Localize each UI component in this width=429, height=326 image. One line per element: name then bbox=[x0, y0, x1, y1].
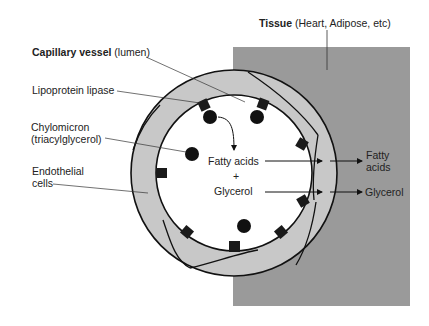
plus-sign: + bbox=[233, 170, 239, 182]
chylomicron-particle bbox=[203, 110, 217, 124]
endothelial-label: Endothelial bbox=[32, 165, 84, 177]
chylomicron-particle bbox=[237, 219, 251, 233]
tissue-examples: (Heart, Adipose, etc) bbox=[292, 17, 391, 29]
lipase-marker bbox=[156, 168, 167, 178]
tissue-bold: Tissue bbox=[259, 17, 292, 29]
capillary-vessel-qualifier: (lumen) bbox=[111, 46, 150, 58]
chylomicron-particle bbox=[250, 110, 264, 124]
lipase-marker bbox=[229, 241, 240, 252]
chylomicron-label: Chylomicron bbox=[31, 121, 90, 133]
triacylglycerol-label: (triacylglycerol) bbox=[31, 133, 102, 145]
capillary-vessel-label: Capillary vessel (lumen) bbox=[32, 46, 150, 58]
tissue-glycerol-label: Glycerol bbox=[365, 186, 404, 198]
cells-label: cells bbox=[32, 177, 53, 189]
lipoprotein-lipase-diagram: Fatty acids + Glycerol Fatty acids Glyce… bbox=[0, 0, 429, 326]
inner-fatty-acids-label: Fatty acids bbox=[208, 155, 259, 167]
lipoprotein-lipase-label: Lipoprotein lipase bbox=[32, 84, 114, 96]
tissue-acids-label: acids bbox=[366, 161, 391, 173]
capillary-vessel-bold: Capillary vessel bbox=[32, 46, 111, 58]
inner-glycerol-label: Glycerol bbox=[214, 185, 253, 197]
chylomicron-particle bbox=[185, 147, 199, 161]
tissue-fatty-label: Fatty bbox=[366, 149, 390, 161]
tissue-label: Tissue (Heart, Adipose, etc) bbox=[259, 17, 391, 29]
